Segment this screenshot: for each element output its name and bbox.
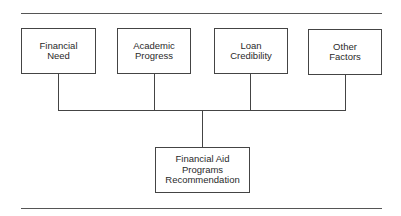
connector-academic-progress bbox=[154, 74, 155, 110]
node-label-line: Credibility bbox=[230, 51, 272, 62]
bottom-rule bbox=[21, 208, 382, 209]
node-financial-need: Financial Need bbox=[21, 28, 96, 74]
connector-other-factors bbox=[345, 75, 346, 110]
node-academic-progress: Academic Progress bbox=[117, 28, 191, 74]
node-loan-credibility: Loan Credibility bbox=[214, 28, 288, 74]
connector-loan-credibility bbox=[250, 74, 251, 110]
node-label-line: Factors bbox=[329, 52, 361, 63]
top-rule bbox=[21, 13, 382, 14]
node-label-line: Progress bbox=[135, 51, 173, 62]
node-label-line: Recommendation bbox=[165, 175, 239, 186]
node-label-line: Need bbox=[47, 51, 70, 62]
connector-output bbox=[202, 110, 203, 148]
connector-financial-need bbox=[58, 74, 59, 110]
node-financial-aid-programs-recommendation: Financial Aid Programs Recommendation bbox=[155, 147, 250, 193]
node-other-factors: Other Factors bbox=[308, 29, 382, 75]
